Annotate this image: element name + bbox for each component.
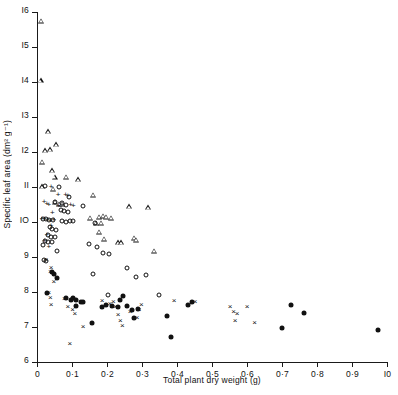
data-point-cross: × [231, 317, 239, 325]
data-point-open-triangle [96, 214, 102, 219]
data-point-cross: × [47, 301, 55, 309]
data-point-open-circle [71, 219, 76, 224]
data-point-cross: × [69, 306, 77, 314]
data-point-filled-circle [121, 293, 126, 298]
data-point-filled-circle [74, 297, 79, 302]
data-point-filled-circle [109, 304, 114, 309]
data-point-filled-circle [116, 304, 121, 309]
data-point-cross: × [60, 295, 68, 303]
data-point-open-triangle [42, 148, 48, 153]
data-point-cross: × [230, 308, 238, 316]
y-tick-8: 8 [32, 292, 37, 293]
data-point-open-circle [64, 203, 69, 208]
data-point-cross: × [79, 323, 87, 331]
y-tick-label: I5 [22, 40, 30, 50]
data-point-open-triangle [45, 129, 51, 134]
data-point-open-circle [41, 217, 46, 222]
y-tick-label: 9 [24, 250, 29, 260]
y-tick-7: 7 [32, 327, 37, 328]
data-point-filled-circle [51, 271, 56, 276]
data-point-filled-circle [69, 297, 74, 302]
x-tick-0·9: 0·9 [352, 362, 353, 367]
data-point-open-triangle [101, 236, 107, 241]
x-tick-0·4: 0·4 [177, 362, 178, 367]
y-tick-label: I4 [22, 75, 30, 85]
data-point-open-triangle [47, 147, 53, 152]
y-tick-9: 9 [32, 257, 37, 258]
data-point-open-triangle [131, 235, 137, 240]
data-point-open-circle [56, 185, 61, 190]
data-point-cross: × [42, 256, 50, 264]
data-point-open-triangle [93, 220, 99, 225]
data-point-open-circle [46, 218, 51, 223]
data-point-filled-circle [54, 276, 59, 281]
data-point-filled-circle [100, 304, 105, 309]
data-point-cross: × [47, 264, 55, 272]
data-point-open-triangle [52, 174, 58, 179]
data-point-cross: × [243, 303, 251, 311]
data-point-open-triangle [56, 201, 62, 206]
data-point-plus: + [45, 201, 53, 209]
data-point-open-circle [41, 242, 46, 247]
data-point-filled-circle [79, 299, 84, 304]
data-point-open-triangle [151, 248, 157, 253]
data-point-open-triangle [39, 184, 45, 189]
data-point-filled-circle [90, 320, 95, 325]
data-point-open-circle [93, 220, 98, 225]
data-point-open-circle [53, 199, 58, 204]
data-point-open-circle [100, 250, 105, 255]
data-point-open-circle [44, 217, 49, 222]
data-point-open-triangle [87, 215, 93, 220]
data-point-plus: + [47, 222, 55, 230]
data-point-filled-circle [103, 303, 108, 308]
data-point-cross: × [46, 268, 54, 276]
data-point-cross: × [98, 297, 106, 305]
data-point-filled-circle [71, 296, 76, 301]
data-point-cross: × [106, 300, 114, 308]
data-point-cross: × [45, 289, 53, 297]
data-point-cross: × [64, 303, 72, 311]
data-point-plus: + [69, 202, 77, 210]
data-point-plus: + [55, 202, 63, 210]
x-axis-title: Total plant dry weight (g) [37, 375, 387, 385]
data-point-open-circle [125, 266, 130, 271]
x-tick-0·2: 0·2 [107, 362, 108, 367]
data-point-open-triangle [115, 240, 121, 245]
data-point-cross: × [114, 311, 122, 319]
data-point-open-circle [67, 219, 72, 224]
data-point-plus: + [43, 231, 51, 239]
data-point-plus: + [47, 183, 55, 191]
data-point-plus: + [40, 198, 48, 206]
y-tick-I3: I3 [32, 117, 37, 118]
data-point-filled-circle [185, 302, 190, 307]
data-point-open-triangle [90, 192, 96, 197]
y-tick-label: 6 [24, 355, 29, 365]
data-point-open-triangle [38, 78, 44, 83]
data-point-filled-circle [74, 304, 79, 309]
x-tick-0·6: 0·6 [247, 362, 248, 367]
data-point-open-circle [42, 239, 47, 244]
data-point-open-triangle [53, 142, 59, 147]
y-tick-label: 7 [24, 320, 29, 330]
data-point-open-circle [52, 234, 57, 239]
data-point-plus: + [45, 243, 53, 251]
data-point-plus: + [43, 200, 51, 208]
y-axis-line [37, 12, 38, 362]
data-point-filled-circle [135, 306, 140, 311]
data-point-plus: + [62, 191, 70, 199]
data-point-cross: × [116, 317, 124, 325]
data-point-open-triangle [52, 199, 58, 204]
data-point-cross: × [71, 310, 79, 318]
data-point-open-triangle [108, 215, 114, 220]
data-point-open-circle [62, 208, 67, 213]
data-point-plus: + [54, 191, 62, 199]
data-point-open-triangle [63, 174, 69, 179]
data-point-cross: × [137, 301, 145, 309]
data-point-cross: × [46, 294, 54, 302]
data-point-plus: + [67, 201, 75, 209]
data-point-open-circle [60, 219, 65, 224]
y-tick-label: I2 [22, 145, 30, 155]
data-point-filled-circle [280, 325, 285, 330]
data-point-filled-circle [131, 315, 136, 320]
data-point-open-circle [144, 272, 149, 277]
